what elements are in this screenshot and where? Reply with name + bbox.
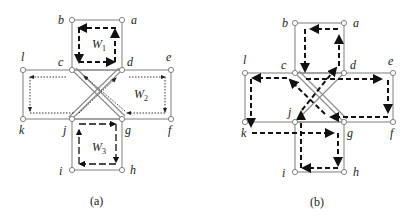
node-label-j: j xyxy=(61,123,67,137)
node-label-e: e xyxy=(166,50,172,64)
node-label-a: a xyxy=(131,13,137,27)
node-label-d: d xyxy=(350,58,357,72)
node-labels-b: a b c d e f g h i j k l xyxy=(241,16,395,180)
node-label-h: h xyxy=(353,165,359,179)
walk-label-w2: W2 xyxy=(134,87,148,103)
node-label-g: g xyxy=(125,123,131,137)
node-label-h: h xyxy=(130,163,136,177)
node-label-k: k xyxy=(241,126,247,140)
walk-label-w3: W3 xyxy=(92,140,106,156)
node-label-b: b xyxy=(58,13,64,27)
node-label-c: c xyxy=(58,55,64,69)
node-label-f: f xyxy=(168,123,173,137)
figure-a: a b c d e f g h i j k l W1 W2 W3 (a) xyxy=(19,13,174,208)
graph-figure: a b c d e f g h i j k l W1 W2 W3 (a) xyxy=(0,0,412,222)
node-label-g: g xyxy=(347,126,353,140)
figure-b: a b c d e f g h i j k l (b) xyxy=(241,16,396,209)
node-label-e: e xyxy=(388,54,394,68)
caption-a: (a) xyxy=(90,194,103,208)
node-label-l: l xyxy=(243,53,247,67)
node-label-k: k xyxy=(19,123,25,137)
node-label-i: i xyxy=(282,166,285,180)
node-label-f: f xyxy=(390,126,395,140)
node-label-c: c xyxy=(281,58,287,72)
node-label-j: j xyxy=(286,105,292,119)
walk-labels-a: W1 W2 W3 xyxy=(92,37,148,156)
walk-label-w1: W1 xyxy=(92,37,106,53)
walk-euler-circuit xyxy=(251,29,388,168)
node-label-b: b xyxy=(282,16,288,30)
node-label-d: d xyxy=(127,55,134,69)
node-label-a: a xyxy=(353,16,359,30)
node-label-l: l xyxy=(21,50,25,64)
caption-b: (b) xyxy=(310,195,324,209)
node-label-i: i xyxy=(59,164,62,178)
graph-edges-b xyxy=(245,23,393,172)
